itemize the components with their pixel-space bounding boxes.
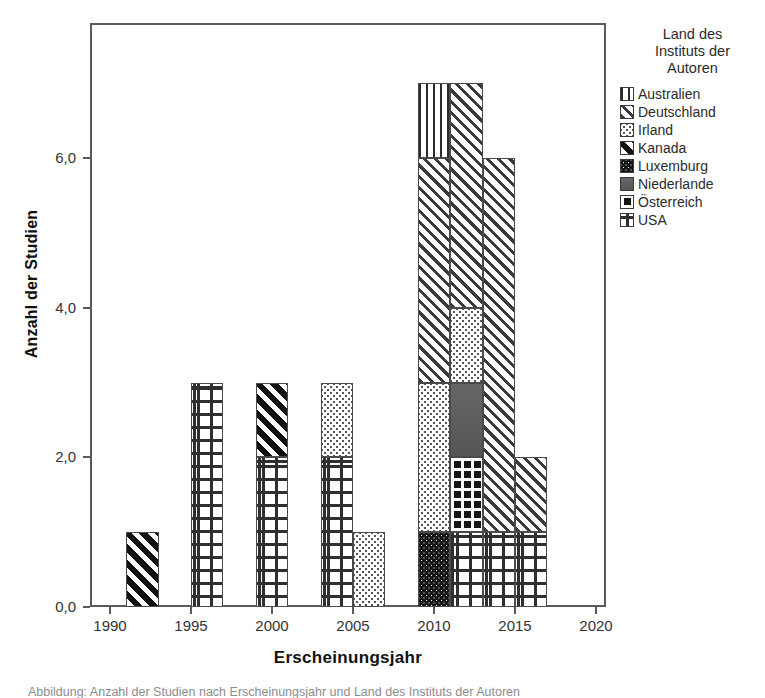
legend-item-oesterreich[interactable]: Österreich [620, 194, 765, 210]
legend-title-line: Land des [620, 26, 765, 43]
chart-figure: Anzahl der Studien 0,02,04,06,0 19901995… [0, 0, 765, 698]
bars-layer [90, 23, 606, 607]
bar-segment-usa [483, 532, 515, 607]
x-tick [190, 607, 192, 614]
bar-segment-kanada [256, 383, 288, 458]
bar [515, 457, 547, 607]
x-tick-label: 2000 [242, 617, 302, 634]
legend-swatch-australien-icon [620, 87, 634, 101]
bar-segment-usa [450, 532, 482, 607]
bar [321, 383, 353, 607]
x-tick-label: 2020 [566, 617, 626, 634]
legend-title-line: Autoren [620, 60, 765, 77]
legend-item-label: Österreich [638, 194, 703, 210]
bar [256, 383, 288, 607]
legend-item-usa[interactable]: USA [620, 212, 765, 228]
bar-segment-irland [353, 532, 385, 607]
x-tick [109, 607, 111, 614]
legend-swatch-deutschland-icon [620, 105, 634, 119]
legend-item-luxemburg[interactable]: Luxemburg [620, 158, 765, 174]
bar-segment-deutschland [515, 457, 547, 532]
legend-item-label: Deutschland [638, 104, 716, 120]
bar [418, 83, 450, 607]
bar-segment-irland [450, 308, 482, 383]
y-tick-label: 2,0 [30, 448, 76, 465]
bar-segment-irland [418, 383, 450, 533]
y-tick-label: 6,0 [30, 149, 76, 166]
x-tick-label: 2005 [323, 617, 383, 634]
legend-item-label: USA [638, 212, 667, 228]
legend-item-deutschland[interactable]: Deutschland [620, 104, 765, 120]
legend-swatch-luxemburg-icon [620, 159, 634, 173]
legend-title: Land desInstituts derAutoren [620, 26, 765, 77]
legend-item-kanada[interactable]: Kanada [620, 140, 765, 156]
y-tick [83, 307, 90, 309]
x-tick [352, 607, 354, 614]
bar-segment-deutschland [483, 158, 515, 532]
x-tick [433, 607, 435, 614]
bar [353, 532, 385, 607]
legend-items: AustralienDeutschlandIrlandKanadaLuxembu… [620, 86, 765, 228]
x-axis-label: Erscheinungsjahr [90, 648, 606, 668]
x-tick [514, 607, 516, 614]
legend-item-niederlande[interactable]: Niederlande [620, 176, 765, 192]
x-tick-label: 1990 [80, 617, 140, 634]
legend-item-label: Kanada [638, 140, 686, 156]
bar [191, 383, 223, 607]
legend-swatch-niederlande-icon [620, 177, 634, 191]
legend-item-label: Australien [638, 86, 700, 102]
y-tick [83, 606, 90, 608]
bar-segment-deutschland [450, 83, 482, 307]
bar-segment-usa [515, 532, 547, 607]
legend-item-label: Niederlande [638, 176, 714, 192]
x-tick [271, 607, 273, 614]
legend-swatch-oesterreich-icon [620, 195, 634, 209]
y-tick [83, 157, 90, 159]
legend-item-label: Irland [638, 122, 673, 138]
bar-segment-usa [256, 457, 288, 607]
bar-segment-irland [321, 383, 353, 458]
legend-item-label: Luxemburg [638, 158, 708, 174]
legend-item-australien[interactable]: Australien [620, 86, 765, 102]
legend-swatch-irland-icon [620, 123, 634, 137]
legend-item-irland[interactable]: Irland [620, 122, 765, 138]
y-tick-label: 0,0 [30, 598, 76, 615]
x-tick [595, 607, 597, 614]
bar-segment-kanada [126, 532, 158, 607]
legend: Land desInstituts derAutoren AustralienD… [620, 26, 765, 230]
y-tick-label: 4,0 [30, 299, 76, 316]
legend-title-line: Instituts der [620, 43, 765, 60]
bar-segment-luxemburg [418, 532, 450, 607]
figure-caption: Abbildung: Anzahl der Studien nach Ersch… [28, 686, 748, 698]
bar [126, 532, 158, 607]
bar-segment-niederlande [450, 383, 482, 458]
bar-segment-deutschland [418, 158, 450, 382]
y-axis-label: Anzahl der Studien [23, 184, 41, 384]
bar-segment-australien [418, 83, 450, 158]
bar-segment-usa [191, 383, 223, 607]
x-tick-label: 1995 [161, 617, 221, 634]
legend-swatch-kanada-icon [620, 141, 634, 155]
bar-segment-usa [321, 457, 353, 607]
x-tick-label: 2010 [404, 617, 464, 634]
y-tick [83, 456, 90, 458]
bar [450, 83, 482, 607]
x-tick-label: 2015 [485, 617, 545, 634]
bar-segment-oesterreich [450, 457, 482, 532]
bar [483, 158, 515, 607]
legend-swatch-usa-icon [620, 213, 634, 227]
